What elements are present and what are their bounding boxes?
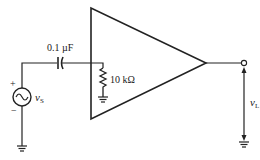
- source-voltage-label: vS: [35, 92, 44, 105]
- load-voltage-label: vL: [250, 97, 259, 110]
- source-minus-label: −: [11, 106, 17, 116]
- resistor-zigzag: [100, 68, 106, 97]
- sine-symbol: [16, 94, 28, 100]
- input-wire: [22, 63, 57, 88]
- source-plus-label: +: [10, 79, 16, 89]
- capacitor-to-resistor-wire: [62, 63, 103, 68]
- capacitor-label: 0.1 µF: [47, 43, 73, 53]
- arrow-down-icon: [242, 135, 247, 141]
- arrow-up-icon: [242, 67, 247, 73]
- output-terminal: [241, 60, 246, 65]
- amplifier-triangle: [91, 8, 206, 119]
- resistor-label: 10 kΩ: [110, 75, 135, 85]
- circuit-diagram: 0.1 µF 10 kΩ + − vS vL: [0, 0, 260, 160]
